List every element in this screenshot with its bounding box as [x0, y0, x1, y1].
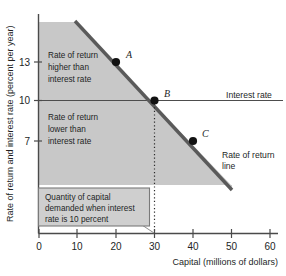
- x-tick-label-0: 0: [36, 241, 42, 252]
- y-axis-title: Rate of return and interest rate (percen…: [5, 25, 15, 222]
- x-tick-label-60: 60: [264, 241, 276, 252]
- region-label-below-line-1: Rate of return: [48, 113, 99, 122]
- chart-canvas: 13 10 7 0 10 20 30 40 50 60 Capital (mil…: [0, 0, 286, 276]
- region-label-below-line-2: lower than: [48, 125, 86, 134]
- y-tick-label-10: 10: [19, 95, 31, 106]
- data-point-b: [150, 96, 158, 104]
- x-tick-label-50: 50: [226, 241, 238, 252]
- rate-of-return-line-label-1: Rate of return: [222, 150, 275, 160]
- data-point-a-label: A: [125, 49, 133, 60]
- data-point-b-label: B: [164, 88, 170, 99]
- x-tick-label-20: 20: [110, 241, 122, 252]
- callout-line-2: demanded when interest: [45, 204, 135, 213]
- interest-rate-label: Interest rate: [226, 90, 272, 100]
- x-axis-title: Capital (millions of dollars): [172, 257, 278, 267]
- callout-line-3: rate is 10 percent: [45, 215, 109, 224]
- data-point-c: [189, 137, 197, 145]
- x-tick-label-30: 30: [149, 241, 161, 252]
- y-tick-label-7: 7: [24, 136, 30, 147]
- x-tick-label-10: 10: [71, 241, 83, 252]
- data-point-a: [112, 58, 120, 66]
- shaded-region-fill: [39, 22, 231, 185]
- x-tick-label-40: 40: [187, 241, 199, 252]
- region-label-below-line-3: interest rate: [48, 137, 92, 146]
- callout-line-1: Quantity of capital: [45, 193, 111, 202]
- rate-of-return-line-label-2: line: [222, 161, 236, 171]
- region-label-above-line-3: interest rate: [48, 75, 92, 84]
- rate-of-return-chart: 13 10 7 0 10 20 30 40 50 60 Capital (mil…: [0, 0, 286, 276]
- data-point-c-label: C: [202, 128, 209, 139]
- region-label-above-line-2: higher than: [48, 63, 89, 72]
- region-label-above-line-1: Rate of return: [48, 51, 99, 60]
- y-tick-label-13: 13: [19, 57, 31, 68]
